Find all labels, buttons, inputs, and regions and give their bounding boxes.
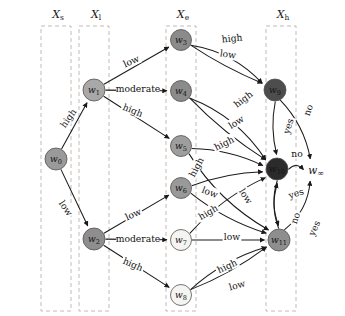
nodes-layer: w0w1w2w3w4w5w6w7w8w9w10w11w∞ xyxy=(45,30,324,306)
graph-figure: w0w1w2w3w4w5w6w7w8w9w10w11w∞ highlowlowm… xyxy=(0,0,345,316)
edge-w9-to-w10 xyxy=(273,102,277,155)
edge-label-e-w3-w9-hi: high xyxy=(220,31,245,45)
edge-w7-to-w10 xyxy=(190,178,266,234)
edge-label-e-w5-w10: high xyxy=(211,133,237,153)
edge-w4-to-w10 xyxy=(190,98,266,160)
group-box-Xl xyxy=(79,26,109,311)
edge-label-text: low xyxy=(219,47,237,60)
edge-label-e-w10-w11: yes xyxy=(285,185,306,201)
edge-label-text: high xyxy=(221,31,243,44)
edge-label-text: high xyxy=(121,101,144,119)
edge-label-e-w6-w11: low xyxy=(199,183,221,200)
group-label-Xl: Xl xyxy=(90,8,102,22)
edge-label-e-w3-w9-lo: low xyxy=(218,47,238,61)
edge-label-e-w8-w11-lo: low xyxy=(226,277,247,293)
group-label-Xh: Xh xyxy=(276,8,290,22)
group-label-Xe: Xe xyxy=(176,8,190,22)
edge-label-e-w0-w2: low xyxy=(56,197,76,219)
graph-canvas: w0w1w2w3w4w5w6w7w8w9w10w11w∞ highlowlowm… xyxy=(0,0,345,316)
edge-label-text: moderate xyxy=(116,83,161,94)
edge-label-e-w1-w4: moderate xyxy=(116,82,161,93)
edge-label-text: no xyxy=(291,148,303,159)
edge-w4-to-w10 xyxy=(190,98,266,160)
edge-label-e-w5-w11: low xyxy=(236,185,255,207)
edge-label-e-w9-w10: yes xyxy=(280,115,296,136)
group-boxes-layer xyxy=(41,26,296,311)
node-w11[interactable]: w11 xyxy=(268,229,290,251)
node-w1[interactable]: w1 xyxy=(83,79,105,101)
node-w8[interactable]: w8 xyxy=(171,285,192,306)
edge-label-e-w6-w10: high xyxy=(186,154,207,180)
edge-label-text: moderate xyxy=(116,233,161,244)
edge-label-e-w11-inf: yes xyxy=(305,217,323,239)
edge-label-e-w2-w7: moderate xyxy=(116,232,161,243)
node-w10[interactable]: w10 xyxy=(266,158,288,180)
edge-label-e-w10-inf: no xyxy=(290,147,304,158)
node-w0[interactable]: w0 xyxy=(45,148,67,170)
node-w4[interactable]: w4 xyxy=(171,81,192,102)
node-w6[interactable]: w6 xyxy=(171,178,192,199)
edge-label-text: high xyxy=(121,255,144,273)
group-label-Xs: Xs xyxy=(51,8,64,22)
edge-label-text: low xyxy=(224,231,240,242)
edge-label-text: low xyxy=(228,277,247,292)
node-w5[interactable]: w5 xyxy=(171,136,192,157)
group-labels-layer: XsXlXeXh xyxy=(51,8,289,22)
node-w2[interactable]: w2 xyxy=(83,228,105,250)
node-label-winf: w∞ xyxy=(308,164,324,177)
edge-label-e-w4-w10-lo: low xyxy=(225,112,247,131)
edge-label-e-w2-w8: high xyxy=(120,254,146,274)
edge-label-e-w7-w10: high xyxy=(195,201,221,222)
node-w3[interactable]: w3 xyxy=(171,30,192,51)
node-w7[interactable]: w7 xyxy=(171,230,192,251)
node-w9[interactable]: w9 xyxy=(264,79,286,101)
edge-label-e-w0-w1: high xyxy=(57,105,80,131)
edge-label-e-w1-w3: low xyxy=(120,52,142,70)
edge-label-e-w1-w5: high xyxy=(120,100,146,119)
edge-label-e-w7-w11: low xyxy=(223,230,242,241)
edge-label-e-w9-inf: no xyxy=(300,102,315,119)
edge-label-e-w4-w10-hi: high xyxy=(230,87,255,110)
